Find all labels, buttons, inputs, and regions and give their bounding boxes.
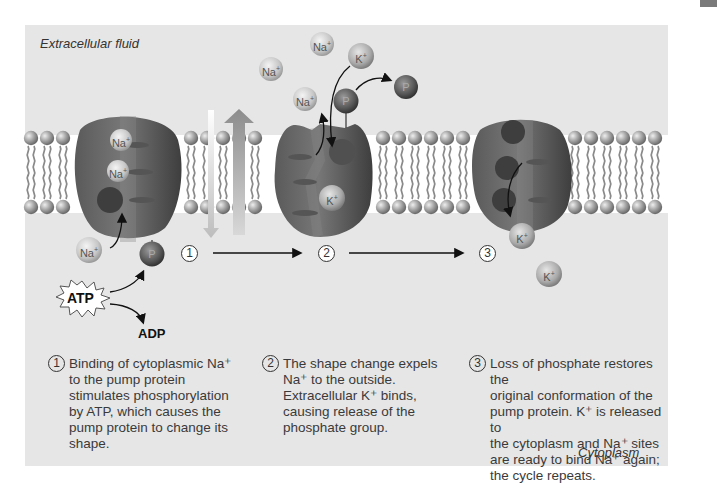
step-1-number: 1 xyxy=(48,355,65,372)
step-marker-1: 1 xyxy=(181,245,198,262)
step-1-description: 1 Binding of cytoplasmic Na⁺ to the pump… xyxy=(48,356,248,452)
ion-label-k: K+ xyxy=(536,261,562,290)
atp-label: ATP xyxy=(67,290,94,306)
step-3-description: 3 Loss of phosphate restores the origina… xyxy=(469,356,669,484)
step-marker-3: 3 xyxy=(479,245,496,262)
ion-label-na: Na+ xyxy=(309,31,335,60)
atp-to-adp-arrow xyxy=(110,304,143,322)
step-1-text: Binding of cytoplasmic Na⁺ to the pump p… xyxy=(69,356,248,452)
phosphate-release-arrow xyxy=(356,78,390,90)
ion-label-na: Na+ xyxy=(292,86,318,115)
ion-label-k: K+ xyxy=(509,223,535,252)
ion-label-na: Na+ xyxy=(258,56,284,85)
ion-label-k: K+ xyxy=(348,43,374,72)
step-marker-2: 2 xyxy=(318,245,335,262)
step-2-description: 2 The shape change expels Na⁺ to the out… xyxy=(262,356,452,436)
step-2-text: The shape change expels Na⁺ to the outsi… xyxy=(283,356,452,436)
ion-label-na: Na+ xyxy=(76,237,102,266)
atp-to-p-arrow xyxy=(110,272,143,292)
step-3-number: 3 xyxy=(469,355,486,372)
ion-label-k: K+ xyxy=(319,185,345,214)
extracellular-fluid-label: Extracellular fluid xyxy=(40,36,139,51)
ion-label-na: Na+ xyxy=(105,158,131,187)
phosphate-label: P xyxy=(333,88,359,114)
step-3-text: Loss of phosphate restores the original … xyxy=(490,356,669,484)
phosphate-label: P xyxy=(139,241,165,267)
phosphate-label: P xyxy=(393,74,419,100)
pump-protein-state-3 xyxy=(472,120,572,233)
adp-label: ADP xyxy=(138,326,165,341)
ion-label-na: Na+ xyxy=(108,127,134,156)
step-2-number: 2 xyxy=(262,355,279,372)
